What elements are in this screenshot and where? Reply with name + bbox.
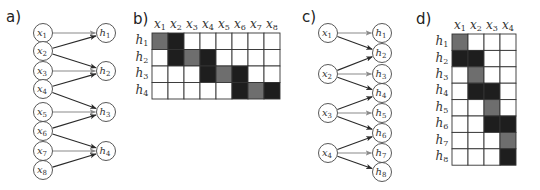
edge-x8-h4 [53,154,96,167]
cell-h4-x3 [484,83,500,99]
cell-h3-x1 [152,66,168,83]
node-x5: x5 [34,103,53,122]
edge-x4-h6 [337,137,372,150]
edge-x1-h2 [337,36,372,49]
cell-h8-x1 [452,149,468,165]
cell-h2-x4 [200,50,216,67]
row-header-h4: h4 [436,83,449,98]
node-h2: h2 [97,62,116,81]
node-h8: h8 [373,163,392,182]
edges [337,33,372,169]
col-header-x3: x3 [186,17,198,32]
col-header-x7: x7 [250,17,262,32]
cell-h3-x2 [168,66,184,83]
cell-h2-x3 [484,50,500,66]
edge-x3-h6 [337,116,372,129]
cell-h1-x8 [264,33,280,50]
col-header-x5: x5 [218,17,230,32]
panel-d-matrix: x1x2x3x4h1h2h3h4h5h6h7h8 [436,18,516,165]
cell-h3-x3 [484,67,500,83]
edge-x3-h4 [337,97,372,110]
cell-h2-x7 [248,50,264,67]
col-header-x4: x4 [202,17,214,32]
panel-label-d: d) [416,10,431,28]
cell-h1-x5 [216,33,232,50]
cell-h2-x8 [264,50,280,67]
cell-h3-x2 [468,67,484,83]
cell-h5-x1 [452,100,468,116]
cell-h2-x1 [152,50,168,67]
col-header-x2: x2 [470,18,482,33]
panel-label-b: b) [133,10,148,28]
edge-x4-h8 [337,156,372,168]
cell-h4-x2 [168,83,184,100]
node-x3: x3 [319,104,338,123]
panel-a-graph: x1x2x3x4x5x6x7x8h1h2h3h4 [34,24,116,180]
cell-h3-x6 [232,66,248,83]
cell-h3-x4 [500,67,516,83]
edge-x2-h4 [337,77,372,89]
row-header-h2: h2 [436,51,449,66]
cell-h1-x3 [184,33,200,50]
cell-h3-x4 [200,66,216,83]
row-header-h1: h1 [136,33,149,48]
col-header-x1: x1 [154,17,166,32]
node-x1: x1 [319,24,338,43]
cell-h8-x3 [484,149,500,165]
cell-h2-x1 [452,50,468,66]
node-x2: x2 [319,65,338,84]
node-h6: h6 [373,124,392,143]
cell-h1-x2 [168,33,184,50]
cell-h7-x2 [468,132,484,148]
cell-h2-x4 [500,50,516,66]
cell-h2-x2 [168,50,184,67]
cell-h7-x1 [452,132,468,148]
cell-h4-x8 [264,83,280,100]
cell-h6-x4 [500,116,516,132]
row-header-h2: h2 [136,50,149,65]
cell-h1-x6 [232,33,248,50]
cell-h8-x2 [468,149,484,165]
cell-h4-x4 [500,83,516,99]
cell-h1-x2 [468,34,484,50]
col-header-x3: x3 [486,18,498,33]
panel-c-graph: x1x2x3x4h1h2h3h4h5h6h7h8 [319,24,392,182]
node-h1: h1 [373,24,392,43]
row-header-h4: h4 [136,83,149,98]
node-x6: x6 [34,122,53,141]
cell-h3-x8 [264,66,280,83]
cell-h6-x1 [452,116,468,132]
cell-h3-x3 [184,66,200,83]
panel-label-c: c) [302,8,316,26]
col-header-x6: x6 [234,17,246,32]
node-h4: h4 [97,142,116,161]
node-h5: h5 [373,104,392,123]
cell-h4-x3 [184,83,200,100]
cell-h4-x7 [248,83,264,100]
col-header-x4: x4 [502,18,514,33]
node-x1: x1 [34,24,53,43]
node-x4: x4 [34,80,53,99]
cell-h4-x1 [152,83,168,100]
cell-h3-x5 [216,66,232,83]
cell-h6-x2 [468,116,484,132]
cell-h3-x1 [452,67,468,83]
panel-b-matrix: x1x2x3x4x5x6x7x8h1h2h3h4 [136,17,280,99]
cell-h1-x4 [200,33,216,50]
row-header-h5: h5 [436,100,449,115]
cell-h7-x3 [484,132,500,148]
cell-h4-x1 [452,83,468,99]
cell-h5-x3 [484,100,500,116]
node-x4: x4 [319,144,338,163]
node-h3: h3 [373,65,392,84]
cell-h5-x4 [500,100,516,116]
node-x8: x8 [34,161,53,180]
cell-h1-x4 [500,34,516,50]
edge-x6-h4 [53,134,96,148]
cell-h4-x5 [216,83,232,100]
edge-x2-h1 [53,36,96,48]
cell-h2-x5 [216,50,232,67]
row-header-h6: h6 [436,116,449,131]
edges [52,33,96,167]
cell-h2-x6 [232,50,248,67]
